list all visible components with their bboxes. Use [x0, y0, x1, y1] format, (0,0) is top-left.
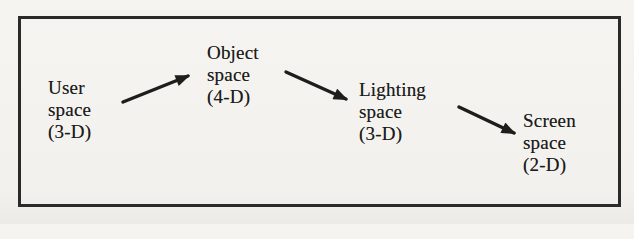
- node-user-space: User space (3-D): [48, 77, 91, 143]
- node-object-space: Object space (4-D): [207, 42, 259, 108]
- node-screen-space: Screen space (2-D): [523, 110, 576, 176]
- scanned-figure-page: { "figure": { "description_type": "flow-…: [0, 0, 634, 224]
- node-lighting-space: Lighting space (3-D): [359, 79, 426, 145]
